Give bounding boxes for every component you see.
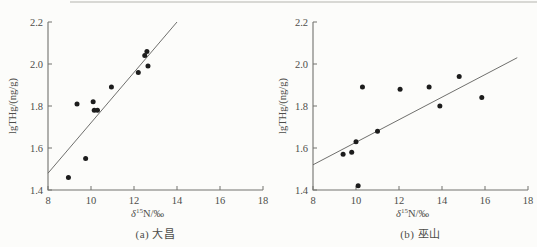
data-point [91, 99, 96, 104]
data-point [479, 95, 484, 100]
data-point [356, 183, 361, 188]
x-tick-label: 18 [258, 195, 269, 206]
x-tick-label: 8 [310, 195, 315, 206]
scatter-chart-wushan: 810121416181.41.61.82.02.2δ15N/‰lgTHg/(n… [270, 0, 537, 247]
y-tick-label: 2.0 [295, 59, 308, 70]
trend-line [313, 58, 517, 165]
x-axis-label: δ15N/‰ [131, 207, 164, 219]
x-tick-label: 18 [523, 195, 534, 206]
y-tick-label: 2.2 [295, 17, 308, 28]
data-point [457, 74, 462, 79]
data-point [109, 85, 114, 90]
y-axis-label: lgTHg/(ng/g) [277, 78, 289, 134]
caption-panel-a: (a) 大昌 [48, 225, 263, 241]
y-tick-label: 1.4 [295, 185, 309, 196]
y-tick-label: 1.8 [30, 101, 43, 112]
axes [313, 22, 528, 190]
y-tick-label: 1.8 [295, 101, 308, 112]
data-point [75, 101, 80, 106]
y-tick-label: 1.6 [295, 143, 308, 154]
data-point [144, 49, 149, 54]
data-point [427, 85, 432, 90]
data-point [437, 104, 442, 109]
y-tick-label: 2.2 [30, 17, 43, 28]
x-tick-label: 16 [480, 195, 491, 206]
trend-line [48, 22, 177, 173]
data-point [398, 87, 403, 92]
x-tick-label: 12 [394, 195, 405, 206]
data-point [375, 129, 380, 134]
x-tick-label: 10 [86, 195, 97, 206]
caption-panel-b: (b) 巫山 [313, 225, 528, 241]
x-tick-label: 14 [437, 195, 448, 206]
data-point [136, 70, 141, 75]
data-point [354, 139, 359, 144]
y-tick-label: 1.6 [30, 143, 43, 154]
x-tick-label: 14 [172, 195, 183, 206]
x-tick-label: 10 [351, 195, 362, 206]
data-point [83, 156, 88, 161]
x-tick-label: 12 [129, 195, 140, 206]
x-tick-label: 8 [45, 195, 50, 206]
x-tick-label: 16 [215, 195, 226, 206]
y-tick-label: 1.4 [30, 185, 44, 196]
data-point [95, 108, 100, 113]
data-point [349, 150, 354, 155]
data-point [145, 64, 150, 69]
data-point [360, 85, 365, 90]
x-axis-label: δ15N/‰ [396, 207, 429, 219]
y-tick-label: 2.0 [30, 59, 43, 70]
data-point [66, 175, 71, 180]
two-panel-scatter-figure: 810121416181.41.61.82.02.2δ15N/‰lgTHg/(n… [0, 0, 537, 247]
y-axis-label: lgTHg/(ng/g) [7, 78, 19, 134]
data-point [341, 152, 346, 157]
scatter-chart-dachang: 810121416181.41.61.82.02.2δ15N/‰lgTHg/(n… [0, 0, 270, 247]
